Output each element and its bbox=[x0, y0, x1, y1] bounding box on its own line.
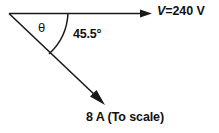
phase-angle-arc bbox=[49, 14, 68, 55]
phasor-diagram: V=240 V 45.5° θ 8 A (To scale) bbox=[0, 0, 219, 133]
voltage-symbol: V bbox=[157, 4, 165, 18]
voltage-value: =240 V bbox=[165, 4, 204, 18]
theta-angle-label: θ bbox=[38, 21, 45, 34]
current-phasor-label: 8 A (To scale) bbox=[86, 111, 164, 124]
voltage-phasor-arrowhead bbox=[140, 9, 152, 17]
phase-angle-label: 45.5° bbox=[73, 28, 101, 41]
voltage-phasor-label: V=240 V bbox=[157, 5, 205, 18]
